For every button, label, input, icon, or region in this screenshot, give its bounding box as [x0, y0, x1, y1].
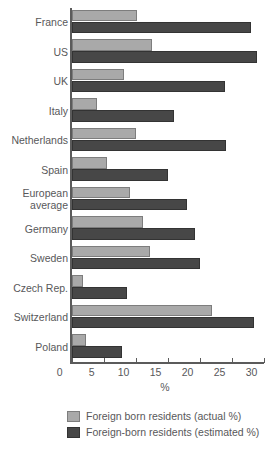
- bar-actual: [72, 128, 137, 140]
- bar-actual: [72, 98, 98, 110]
- bar-row: Italy: [0, 97, 278, 127]
- bar-estimated: [72, 81, 226, 93]
- bar-group: [72, 39, 272, 63]
- category-label: US: [0, 47, 68, 59]
- x-tick-mark: [72, 358, 73, 363]
- x-tick-mark: [136, 358, 137, 363]
- bar-actual: [72, 305, 213, 317]
- category-label: Sweden: [0, 253, 68, 265]
- bar-actual: [72, 69, 124, 81]
- bar-chart: FranceUSUKItalyNetherlandsSpainEuropean …: [0, 0, 278, 451]
- category-label: European average: [0, 188, 68, 211]
- x-tick-mark: [264, 358, 265, 363]
- bar-group: [72, 69, 272, 93]
- legend-swatch-icon-estimated: [67, 427, 80, 438]
- x-tick-label: 20: [176, 366, 200, 378]
- legend-label-actual: Foreign born residents (actual %): [86, 410, 241, 422]
- x-tick-label: 10: [112, 366, 136, 378]
- bar-row: Netherlands: [0, 126, 278, 156]
- bar-row: Poland: [0, 333, 278, 363]
- x-tick-label: 5: [80, 366, 104, 378]
- category-label: Czech Rep.: [0, 283, 68, 295]
- bar-row: European average: [0, 185, 278, 215]
- bar-row: Switzerland: [0, 303, 278, 333]
- bar-row: France: [0, 8, 278, 38]
- category-label: UK: [0, 76, 68, 88]
- bar-row: US: [0, 38, 278, 68]
- x-tick-label: 0: [48, 366, 72, 378]
- bar-group: [72, 305, 272, 329]
- bar-group: [72, 157, 272, 181]
- category-label: Spain: [0, 165, 68, 177]
- bar-actual: [72, 157, 107, 169]
- legend-item-estimated: Foreign-born residents (estimated %): [0, 424, 278, 440]
- category-label: Switzerland: [0, 312, 68, 324]
- plot-area: FranceUSUKItalyNetherlandsSpainEuropean …: [0, 0, 278, 365]
- x-tick-mark: [168, 358, 169, 363]
- bar-row: Sweden: [0, 244, 278, 274]
- legend-item-actual: Foreign born residents (actual %): [0, 408, 278, 424]
- bar-estimated: [72, 199, 187, 211]
- bar-group: [72, 216, 272, 240]
- x-tick-label: 30: [240, 366, 264, 378]
- bar-estimated: [72, 228, 196, 240]
- bar-actual: [72, 10, 137, 22]
- bar-group: [72, 10, 272, 34]
- bar-row: Czech Rep.: [0, 274, 278, 304]
- x-axis-label: %: [0, 381, 278, 393]
- bar-actual: [72, 39, 152, 51]
- bar-estimated: [72, 346, 122, 358]
- x-tick-mark: [200, 358, 201, 363]
- bar-rows: FranceUSUKItalyNetherlandsSpainEuropean …: [0, 8, 278, 362]
- category-label: Italy: [0, 106, 68, 118]
- bar-estimated: [72, 169, 168, 181]
- x-tick-label: 15: [144, 366, 168, 378]
- bar-row: UK: [0, 67, 278, 97]
- bar-row: Germany: [0, 215, 278, 245]
- bar-estimated: [72, 22, 251, 34]
- bar-group: [72, 334, 272, 358]
- chart-legend: Foreign born residents (actual %) Foreig…: [0, 408, 278, 440]
- legend-label-estimated: Foreign-born residents (estimated %): [86, 426, 259, 438]
- bar-group: [72, 128, 272, 152]
- x-tick-mark: [232, 358, 233, 363]
- category-label: Poland: [0, 342, 68, 354]
- bar-row: Spain: [0, 156, 278, 186]
- bar-group: [72, 187, 272, 211]
- bar-estimated: [72, 287, 128, 299]
- bar-group: [72, 98, 272, 122]
- bar-group: [72, 246, 272, 270]
- bar-actual: [72, 187, 130, 199]
- bar-actual: [72, 216, 143, 228]
- bar-actual: [72, 246, 150, 258]
- bar-estimated: [72, 317, 254, 329]
- bar-estimated: [72, 140, 227, 152]
- bar-actual: [72, 334, 87, 346]
- bar-estimated: [72, 258, 200, 270]
- category-label: France: [0, 17, 68, 29]
- bar-actual: [72, 275, 84, 287]
- x-tick-mark: [104, 358, 105, 363]
- x-tick-label: 25: [208, 366, 232, 378]
- legend-swatch-icon-actual: [67, 411, 80, 422]
- bar-estimated: [72, 110, 174, 122]
- category-label: Netherlands: [0, 135, 68, 147]
- bar-group: [72, 275, 272, 299]
- category-label: Germany: [0, 224, 68, 236]
- bar-estimated: [72, 51, 258, 63]
